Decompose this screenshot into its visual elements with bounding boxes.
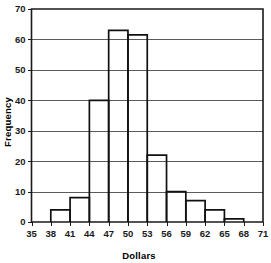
- histogram-plot: 35384144475053565962656871 0102030405060…: [0, 0, 271, 263]
- y-tick-label-30: 30: [15, 125, 26, 136]
- x-tick-label-50: 50: [123, 228, 134, 239]
- x-tick-label-41: 41: [65, 228, 76, 239]
- x-tick-label-59: 59: [181, 228, 192, 239]
- x-tick-label-56: 56: [161, 228, 172, 239]
- y-tick-label-70: 70: [15, 3, 26, 14]
- x-axis-title: Dollars: [122, 250, 156, 261]
- x-tick-label-53: 53: [142, 228, 153, 239]
- x-tick-label-68: 68: [238, 228, 249, 239]
- y-tick-label-20: 20: [15, 156, 26, 167]
- y-tick-label-0: 0: [20, 216, 25, 227]
- y-tick-label-50: 50: [15, 64, 26, 75]
- x-tick-label-44: 44: [84, 228, 95, 239]
- x-tick-label-65: 65: [219, 228, 230, 239]
- x-tick-label-35: 35: [26, 228, 37, 239]
- x-tick-label-38: 38: [46, 228, 57, 239]
- y-axis-title: Frequency: [2, 97, 13, 147]
- x-tick-label-47: 47: [103, 228, 114, 239]
- x-tick-label-71: 71: [258, 228, 269, 239]
- y-tick-label-60: 60: [15, 34, 26, 45]
- y-tick-label-10: 10: [15, 186, 26, 197]
- x-tick-label-62: 62: [200, 228, 211, 239]
- y-tick-label-40: 40: [15, 95, 26, 106]
- histogram-chart: 35384144475053565962656871 0102030405060…: [0, 0, 271, 263]
